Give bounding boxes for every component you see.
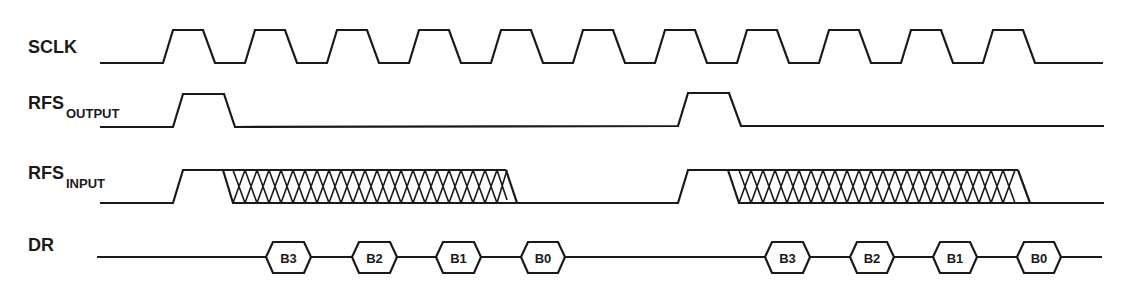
dr-bit-b3-frame1: B3 xyxy=(266,242,311,273)
dr-bit-b1-frame1: B1 xyxy=(436,242,481,273)
dr-bit-label: B1 xyxy=(947,251,964,266)
waveforms: B3 B2 B1 B0 B3 B2 B1 B0 xyxy=(0,0,1129,291)
dr-bit-label: B0 xyxy=(535,251,552,266)
rfs-output-waveform xyxy=(100,93,1104,127)
dr-bit-b0-frame1: B0 xyxy=(521,242,565,273)
dr-bit-label: B3 xyxy=(280,251,297,266)
dr-bit-label: B2 xyxy=(864,251,881,266)
rfs-input-waveform-2 xyxy=(517,170,1018,203)
dr-bit-b1-frame2: B1 xyxy=(933,242,977,273)
dr-bit-b2-frame1: B2 xyxy=(352,242,397,273)
dr-bit-label: B1 xyxy=(450,251,467,266)
dr-bit-label: B2 xyxy=(366,251,383,266)
rfs-input-hatch-1 xyxy=(233,170,507,203)
timing-diagram: SCLK RFSOUTPUT RFSINPUT DR B3 B2 xyxy=(0,0,1129,291)
dr-bit-b3-frame2: B3 xyxy=(765,242,810,273)
dr-bit-label: B3 xyxy=(779,251,796,266)
sclk-waveform xyxy=(100,30,1103,63)
dr-bit-label: B0 xyxy=(1031,251,1048,266)
dr-bit-b2-frame2: B2 xyxy=(850,242,894,273)
dr-bit-b0-frame2: B0 xyxy=(1017,242,1061,273)
rfs-input-hatch-2 xyxy=(739,170,1015,203)
